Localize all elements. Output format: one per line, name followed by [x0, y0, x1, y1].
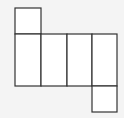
side-face-2 [92, 34, 117, 86]
back-face [67, 34, 92, 86]
top-face [15, 8, 41, 34]
cuboid-net-diagram [0, 0, 124, 118]
bottom-face [92, 86, 117, 112]
front-face [15, 34, 41, 86]
side-face-1 [41, 34, 67, 86]
